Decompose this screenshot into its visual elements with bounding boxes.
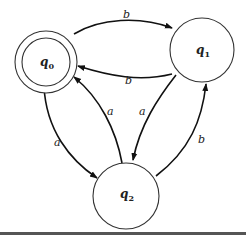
label-q0-q2: a bbox=[54, 136, 61, 149]
label-q2-q0: a bbox=[107, 105, 114, 118]
edge-q2-q0 bbox=[74, 77, 122, 163]
bottom-rule bbox=[0, 232, 246, 235]
edge-q2-q1 bbox=[156, 84, 206, 176]
label-q2-q1: b bbox=[198, 133, 205, 146]
state-q0: q0 bbox=[15, 31, 77, 93]
state-q1: q1 bbox=[170, 18, 234, 82]
label-q1-q0: b bbox=[125, 74, 132, 87]
state-q2: q2 bbox=[93, 163, 159, 229]
edge-q0-q1 bbox=[74, 20, 172, 34]
label-q1-q2: a bbox=[139, 105, 146, 118]
label-q0-q1: b bbox=[123, 8, 130, 21]
edge-q0-q2 bbox=[44, 86, 97, 178]
automaton-diagram: q0 q1 q2 b b a a a b bbox=[0, 0, 246, 237]
